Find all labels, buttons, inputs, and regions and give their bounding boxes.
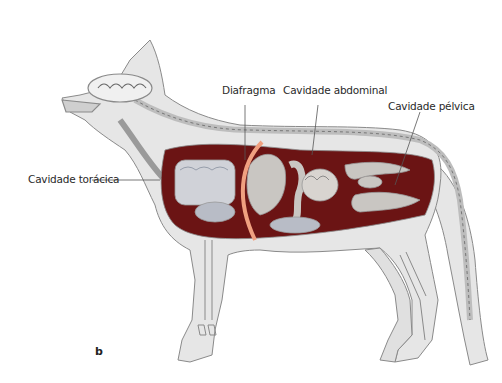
dog-anatomy-diagram: Cavidade torácica Diafragma Cavidade abd… bbox=[0, 0, 502, 383]
liver bbox=[270, 217, 320, 233]
rectum bbox=[358, 176, 382, 188]
intestines bbox=[302, 169, 338, 201]
label-thoracic-cavity: Cavidade torácica bbox=[28, 173, 119, 185]
panel-letter: b bbox=[95, 345, 103, 358]
label-diaphragm: Diafragma bbox=[222, 84, 275, 96]
label-abdominal-cavity: Cavidade abdominal bbox=[283, 84, 387, 96]
heart bbox=[195, 202, 235, 222]
dog-illustration bbox=[0, 0, 502, 383]
label-pelvic-cavity: Cavidade pélvica bbox=[388, 100, 475, 112]
